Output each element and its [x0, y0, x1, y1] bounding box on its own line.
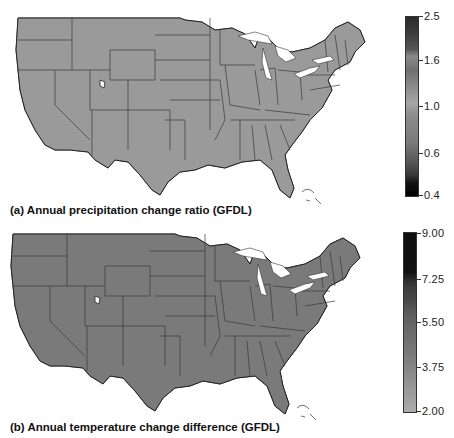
colorbar-tick: [418, 16, 423, 17]
colorbar-tick: [418, 195, 423, 196]
colorbar-tick-label: 7.25: [422, 274, 444, 285]
colorbar-tick: [416, 322, 421, 323]
panel-precipitation: 2.5 1.6 1.0 0.6 0.4 (a) Annual precipita…: [0, 0, 454, 220]
colorbar-temperature: [403, 232, 417, 413]
colorbar-tick-label: 0.4: [424, 190, 440, 201]
colorbar-precipitation: [405, 16, 419, 197]
colorbar-tick-label: 9.00: [422, 228, 444, 239]
colorbar-tick: [416, 279, 421, 280]
colorbar-tick: [416, 411, 421, 412]
colorbar-tick-label: 3.75: [422, 362, 444, 373]
us-map-temperature: [5, 224, 390, 424]
colorbar-tick-label: 1.6: [424, 55, 440, 66]
colorbar-tick: [416, 367, 421, 368]
colorbar-tick: [418, 106, 423, 107]
us-map-precipitation: [10, 10, 395, 210]
bahamas-a: [302, 189, 321, 204]
colorbar-tick-label: 5.50: [422, 317, 444, 328]
colorbar-tick: [416, 233, 421, 234]
caption-temperature: (b) Annual temperature change difference…: [10, 421, 280, 433]
panel-temperature: 9.00 7.25 5.50 3.75 2.00 (b) Annual temp…: [0, 220, 454, 438]
colorbar-tick-label: 1.0: [424, 101, 440, 112]
colorbar-tick-label: 2.5: [424, 11, 440, 22]
colorbar-tick: [418, 60, 423, 61]
colorbar-tick: [418, 153, 423, 154]
caption-precipitation: (a) Annual precipitation change ratio (G…: [10, 204, 252, 216]
colorbar-tick-label: 2.00: [422, 406, 444, 417]
colorbar-tick-label: 0.6: [424, 148, 440, 159]
bahamas-b: [297, 405, 316, 420]
state-borders-a: [16, 18, 365, 198]
state-borders-b: [11, 234, 360, 414]
